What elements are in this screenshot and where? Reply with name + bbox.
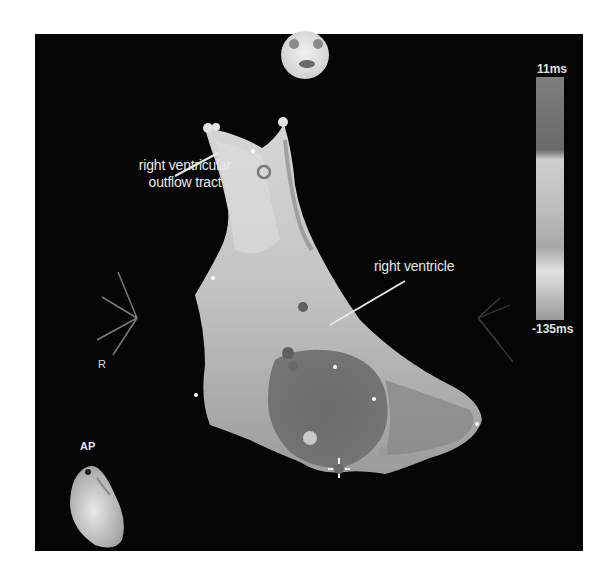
rvot-label: right ventricular outflow tract (120, 157, 250, 191)
activation-color-scale (536, 77, 564, 320)
anatomy-render (0, 0, 612, 576)
rvot-label-line2: outflow tract (120, 174, 250, 191)
scale-min-label: -135ms (532, 322, 573, 336)
head-orientation-icon (281, 31, 329, 79)
scale-max-label: 11ms (537, 62, 567, 76)
heart-orientation-icon (70, 466, 124, 548)
orientation-r-label: R (98, 358, 106, 370)
rv-label: right ventricle (374, 258, 454, 275)
orientation-axes-icon (97, 272, 137, 355)
rvot-label-line1: right ventricular (120, 157, 250, 174)
orientation-axes-right-icon (478, 298, 513, 362)
view-ap-label: AP (80, 440, 95, 452)
